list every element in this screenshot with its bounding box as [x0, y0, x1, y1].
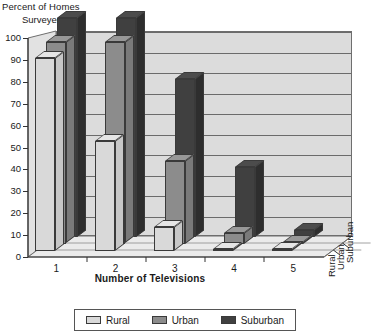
gridline	[57, 32, 351, 33]
bar-side-face	[136, 11, 145, 237]
y-tick-mark	[23, 60, 28, 61]
bar-side-face	[185, 154, 194, 244]
y-tick-label: 40	[0, 164, 21, 173]
y-tick-label: 0	[0, 252, 21, 261]
legend-item-urban: Urban	[152, 315, 199, 326]
y-tick-label: 30	[0, 186, 21, 195]
y-tick-label: 50	[0, 143, 21, 152]
depth-axis-label: Suburban	[344, 221, 355, 262]
bar-front-face	[272, 249, 292, 251]
legend-item-suburban: Suburban	[221, 315, 284, 326]
bar-side-face	[55, 51, 64, 251]
bar	[154, 225, 174, 258]
y-tick-label: 10	[0, 230, 21, 239]
y-tick-mark	[23, 38, 28, 39]
legend-label-suburban: Suburban	[241, 315, 284, 326]
y-tick-mark	[23, 104, 28, 105]
y-tick-mark	[23, 213, 28, 214]
y-tick-label: 60	[0, 121, 21, 130]
chart-legend: Rural Urban Suburban	[74, 309, 296, 331]
bar	[95, 139, 115, 258]
bar	[35, 56, 55, 258]
y-tick-mark	[23, 148, 28, 149]
bar-side-face	[115, 134, 124, 251]
y-tick-label: 90	[0, 55, 21, 64]
y-tick-mark	[23, 126, 28, 127]
bar-side-face	[195, 72, 204, 237]
legend-label-urban: Urban	[172, 315, 199, 326]
y-tick-label: 100	[0, 33, 21, 42]
y-tick-mark	[23, 82, 28, 83]
chart-3d-bar: Percent of Homes Surveyed 01020304050607…	[0, 0, 371, 336]
bar	[272, 249, 292, 258]
bar-front-face	[213, 249, 233, 251]
x-axis-title: Number of Televisions	[0, 273, 300, 284]
y-tick-mark	[23, 235, 28, 236]
bar-front-face	[95, 141, 115, 251]
bar-front-face	[35, 58, 55, 251]
bar-front-face	[154, 227, 174, 251]
y-tick-mark	[23, 191, 28, 192]
bar-side-face	[125, 35, 134, 243]
bar-side-face	[77, 11, 86, 237]
y-tick-mark	[23, 257, 28, 258]
bar-side-face	[66, 35, 75, 243]
legend-swatch-rural	[86, 316, 101, 324]
bar-side-face	[255, 160, 264, 237]
legend-item-rural: Rural	[86, 315, 130, 326]
y-tick-label: 80	[0, 77, 21, 86]
y-tick-label: 70	[0, 99, 21, 108]
legend-swatch-urban	[152, 316, 167, 324]
bar	[213, 247, 233, 258]
legend-label-rural: Rural	[106, 315, 130, 326]
gridline	[57, 53, 351, 54]
y-tick-mark	[23, 169, 28, 170]
legend-swatch-suburban	[221, 316, 236, 324]
y-tick-label: 20	[0, 208, 21, 217]
